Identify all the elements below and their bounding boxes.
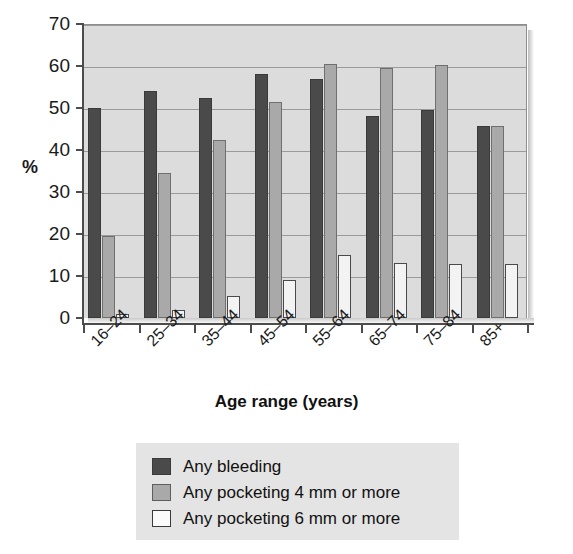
- y-axis-tick-label: 60: [30, 56, 70, 75]
- bar: [491, 126, 504, 318]
- x-axis-tick: [83, 325, 85, 333]
- bar: [366, 116, 379, 318]
- bar: [213, 140, 226, 318]
- y-axis-tick-label: 10: [30, 266, 70, 285]
- x-axis-tick: [250, 325, 252, 333]
- x-axis-line: [82, 323, 534, 325]
- legend-swatch-pocketing-4mm: [152, 484, 171, 501]
- x-axis-tick: [416, 325, 418, 333]
- bar-chart: % Age range (years) 01020304050607016–24…: [0, 0, 573, 420]
- y-axis-tick: [76, 317, 84, 319]
- y-axis-tick: [76, 275, 84, 277]
- bar: [435, 65, 448, 318]
- legend-item: Any pocketing 6 mm or more: [136, 505, 459, 531]
- x-axis-tick: [472, 325, 474, 333]
- bar: [102, 236, 115, 318]
- bar: [269, 102, 282, 318]
- y-axis-title: %: [22, 157, 38, 178]
- bar: [380, 68, 393, 318]
- legend-swatch-any-bleeding: [152, 458, 171, 475]
- bar: [255, 74, 268, 318]
- bar: [88, 108, 101, 318]
- y-axis-tick-label: 70: [30, 14, 70, 33]
- y-axis-tick: [76, 191, 84, 193]
- legend-label: Any bleeding: [183, 458, 281, 475]
- y-axis-tick-label: 40: [30, 140, 70, 159]
- y-axis-line: [82, 24, 84, 324]
- y-axis-tick: [76, 65, 84, 67]
- bar: [199, 98, 212, 319]
- y-axis-tick: [76, 23, 84, 25]
- y-axis-tick: [76, 149, 84, 151]
- x-axis-title: Age range (years): [0, 392, 573, 412]
- y-axis-tick-label: 30: [30, 182, 70, 201]
- y-axis-tick: [76, 233, 84, 235]
- bar: [421, 110, 434, 318]
- legend-item: Any bleeding: [136, 453, 459, 479]
- legend-swatch-pocketing-6mm: [152, 510, 171, 527]
- bar: [144, 91, 157, 318]
- y-gridline: [83, 25, 526, 26]
- plot-shadow-right: [528, 30, 534, 324]
- x-axis-tick: [305, 325, 307, 333]
- x-axis-tick: [527, 325, 529, 333]
- bar: [310, 79, 323, 318]
- y-axis-tick-label: 0: [30, 308, 70, 327]
- y-axis-tick: [76, 107, 84, 109]
- legend-label: Any pocketing 4 mm or more: [183, 484, 400, 501]
- y-gridline: [83, 67, 526, 68]
- legend-label: Any pocketing 6 mm or more: [183, 510, 400, 527]
- x-axis-tick: [361, 325, 363, 333]
- x-axis-tick: [139, 325, 141, 333]
- bar: [158, 173, 171, 318]
- bar: [324, 64, 337, 318]
- chart-legend: Any bleeding Any pocketing 4 mm or more …: [136, 443, 459, 540]
- x-axis-tick: [194, 325, 196, 333]
- legend-item: Any pocketing 4 mm or more: [136, 479, 459, 505]
- y-axis-tick-label: 20: [30, 224, 70, 243]
- bar: [505, 264, 518, 318]
- bar: [477, 126, 490, 318]
- y-axis-tick-label: 50: [30, 98, 70, 117]
